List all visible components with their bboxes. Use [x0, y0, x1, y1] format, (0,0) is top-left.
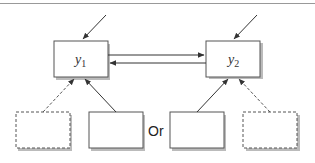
error-arrow-y1 [83, 15, 106, 39]
or-label: Or [148, 123, 164, 139]
node-left-dashed [16, 112, 70, 148]
arrow-right-solid-to-y2 [197, 79, 228, 112]
arrow-left-dashed-to-y1 [43, 79, 74, 112]
node-right-dashed [243, 112, 297, 148]
node-right-solid [170, 112, 224, 148]
error-arrow-y2 [234, 15, 257, 39]
node-left-solid [89, 112, 143, 148]
arrow-left-solid-to-y1 [85, 79, 116, 112]
path-diagram: y1 y2 Or [0, 0, 315, 163]
arrow-right-dashed-to-y2 [239, 79, 270, 112]
